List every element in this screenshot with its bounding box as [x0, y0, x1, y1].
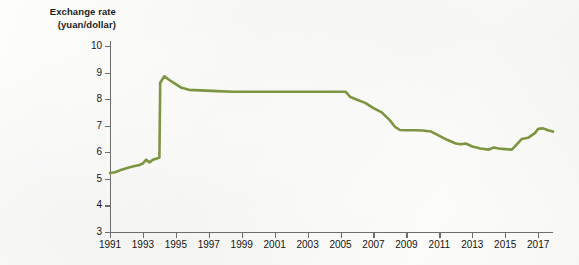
y-axis-line — [110, 41, 111, 233]
x-tick-label-2003: 2003 — [291, 240, 325, 250]
y-tick-mark-10 — [105, 46, 110, 47]
x-tick-mark-2007 — [373, 233, 374, 238]
x-tick-mark-1999 — [242, 233, 243, 238]
data-line-plot — [0, 0, 579, 265]
x-tick-mark-1993 — [143, 233, 144, 238]
y-tick-label-10: 10 — [80, 41, 102, 51]
x-tick-label-1991: 1991 — [93, 240, 127, 250]
x-tick-mark-2009 — [406, 233, 407, 238]
x-tick-mark-2005 — [341, 233, 342, 238]
x-tick-mark-1991 — [110, 233, 111, 238]
x-tick-mark-2011 — [439, 233, 440, 238]
x-tick-mark-1995 — [176, 233, 177, 238]
x-tick-label-1995: 1995 — [159, 240, 193, 250]
x-tick-label-2007: 2007 — [356, 240, 390, 250]
y-axis-title-line1: Exchange rate — [50, 6, 116, 17]
x-tick-mark-2015 — [505, 233, 506, 238]
x-tick-label-1997: 1997 — [192, 240, 226, 250]
x-tick-label-2005: 2005 — [324, 240, 358, 250]
x-tick-label-2013: 2013 — [455, 240, 489, 250]
x-tick-label-1999: 1999 — [225, 240, 259, 250]
y-tick-label-8: 8 — [80, 94, 102, 104]
y-tick-label-4: 4 — [80, 200, 102, 210]
x-tick-mark-2017 — [538, 233, 539, 238]
y-tick-label-3: 3 — [80, 227, 102, 237]
y-tick-label-5: 5 — [80, 174, 102, 184]
x-tick-mark-2001 — [275, 233, 276, 238]
x-tick-mark-1997 — [209, 233, 210, 238]
y-tick-mark-6 — [105, 152, 110, 153]
x-tick-label-2009: 2009 — [389, 240, 423, 250]
x-tick-label-2011: 2011 — [422, 240, 456, 250]
x-tick-label-1993: 1993 — [126, 240, 160, 250]
chart-figure: Exchange rate (yuan/dollar) 345678910 19… — [0, 0, 579, 265]
x-tick-mark-2003 — [308, 233, 309, 238]
y-tick-mark-9 — [105, 73, 110, 74]
paper-texture — [0, 0, 579, 265]
y-axis-title: Exchange rate (yuan/dollar) — [8, 5, 116, 31]
y-tick-label-7: 7 — [80, 121, 102, 131]
x-tick-mark-2013 — [472, 233, 473, 238]
y-tick-label-6: 6 — [80, 147, 102, 157]
y-tick-mark-7 — [105, 126, 110, 127]
x-tick-label-2017: 2017 — [521, 240, 555, 250]
y-axis-title-line2: (yuan/dollar) — [8, 18, 116, 31]
x-tick-label-2001: 2001 — [258, 240, 292, 250]
series-yuan-per-dollar — [110, 76, 553, 173]
x-tick-label-2015: 2015 — [488, 240, 522, 250]
y-tick-label-9: 9 — [80, 68, 102, 78]
y-tick-mark-4 — [105, 205, 110, 206]
y-tick-mark-5 — [105, 179, 110, 180]
y-tick-mark-8 — [105, 99, 110, 100]
